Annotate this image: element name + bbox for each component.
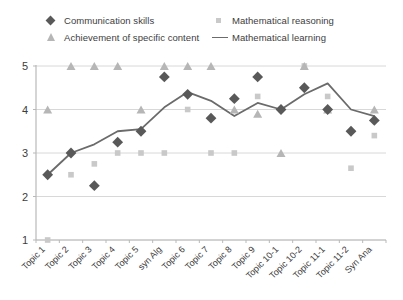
chart-container: Communication skills Achievement of spec…: [0, 0, 403, 300]
x-axis-label: Topic 6: [160, 244, 187, 271]
x-axis-label: Topic 8: [207, 244, 234, 271]
x-axis-label: Topic 2: [43, 244, 70, 271]
x-axis-label: Topic 7: [183, 244, 210, 271]
svg-text:2: 2: [22, 191, 28, 203]
x-axis-label: Topic 1: [20, 244, 47, 271]
x-axis-category-labels: Topic 1Topic 2Topic 3Topic 4Topic 5syn A…: [20, 244, 374, 280]
y-axis-tick-labels: 12345: [22, 60, 36, 246]
x-axis-label: Topic 5: [113, 244, 140, 271]
svg-text:5: 5: [22, 60, 28, 72]
svg-text:3: 3: [22, 147, 28, 159]
series-communication-skills: [42, 71, 379, 191]
svg-text:1: 1: [22, 234, 28, 246]
svg-text:4: 4: [22, 104, 28, 116]
x-axis-label: Topic 3: [67, 244, 94, 271]
x-axis-label: syn Alg: [136, 244, 164, 272]
x-axis-label: Topic 4: [90, 244, 117, 271]
plot-area: 12345 Topic 1Topic 2Topic 3Topic 4Topic …: [0, 0, 403, 300]
